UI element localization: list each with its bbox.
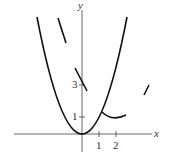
- x-tick-label-1: 1: [96, 140, 102, 151]
- y-axis-label: y: [78, 0, 83, 11]
- curve-segment: [102, 112, 126, 118]
- chart: y x 1 2 1 3: [0, 0, 170, 161]
- plot-area: [0, 0, 170, 161]
- segment-a: [58, 18, 66, 43]
- x-axis-label: x: [154, 128, 159, 139]
- x-tick-label-2: 2: [113, 140, 119, 151]
- y-tick-label-3: 3: [72, 79, 78, 90]
- segment-c: [144, 85, 149, 95]
- y-tick-label-1: 1: [72, 111, 78, 122]
